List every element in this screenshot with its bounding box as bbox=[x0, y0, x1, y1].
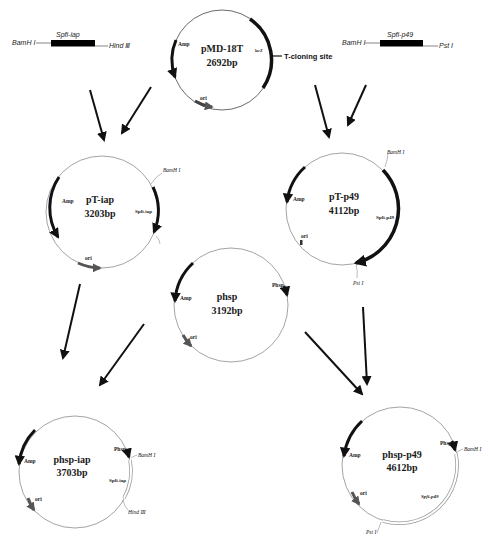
plasmid-pt-p49: BamH I Pst I Amp Spfi-p49 ori pT-p49 411… bbox=[286, 149, 405, 286]
arrow-pmd18t-to-ptiap bbox=[122, 87, 151, 133]
ori-arc bbox=[195, 101, 212, 107]
insert-gene-box bbox=[380, 40, 423, 47]
site-pointer bbox=[131, 455, 137, 458]
amp-label: Amp bbox=[62, 198, 74, 204]
plasmid-name: phsp-p49 bbox=[382, 449, 421, 460]
arrow-spfip49-to-ptp49 bbox=[348, 85, 366, 125]
ori-marker bbox=[300, 240, 303, 245]
plasmid-phsp: Amp Phsp ori phsp 3192bp bbox=[174, 248, 288, 362]
arrow-ptp49-to-phspp49 bbox=[363, 307, 367, 384]
amp-gene-arc bbox=[344, 421, 362, 456]
amp-label: Amp bbox=[349, 452, 361, 458]
arrow-phsp-to-phspiap bbox=[100, 324, 144, 385]
insert-label: Spfi-p49 bbox=[421, 494, 439, 499]
bamhi-site-label: BamH I bbox=[342, 39, 365, 46]
t-cloning-site-label: T-cloning site bbox=[284, 52, 332, 61]
site-pointer bbox=[356, 264, 357, 278]
plasmid-size: 3203bp bbox=[84, 208, 116, 219]
amp-label: Amp bbox=[293, 196, 305, 202]
plasmid-phsp-p49: BamH I Pst I Amp Phsp Spfi-p49 ori phsp-… bbox=[342, 407, 482, 535]
plasmid-size: 2692bp bbox=[206, 57, 238, 68]
arrow-pmd18t-to-ptp49 bbox=[315, 85, 329, 137]
insert-name-label: Spfi-p49 bbox=[387, 31, 413, 39]
bamhi-site-label: BamH I bbox=[387, 149, 405, 155]
bamhi-site-label: BamH I bbox=[464, 446, 482, 452]
psti-site-label: Pst I bbox=[365, 529, 377, 535]
promoter-label: Phsp bbox=[272, 282, 284, 288]
arrow-spfiiap-to-ptiap bbox=[90, 90, 104, 140]
insert-spfi-iap: BamH I Spfi-iap Hind Ⅲ bbox=[12, 31, 130, 49]
amp-label: Amp bbox=[178, 41, 190, 47]
plasmid-size: 3192bp bbox=[211, 305, 243, 316]
promoter-label: Phsp bbox=[114, 446, 126, 452]
plasmid-name: pT-p49 bbox=[329, 191, 359, 202]
hindiii-site-label: Hind Ⅲ bbox=[109, 42, 130, 49]
plasmid-name: phsp bbox=[217, 291, 238, 302]
ori-label: ori bbox=[35, 496, 42, 502]
psti-site-label: Pst I bbox=[352, 280, 364, 286]
ori-label: ori bbox=[200, 95, 207, 101]
plasmid-name: pT-iap bbox=[86, 194, 114, 205]
amp-label: Amp bbox=[24, 458, 36, 464]
insert-gene-arc bbox=[153, 187, 158, 232]
plasmid-phsp-iap: BamH I Hind Ⅲ Amp Phsp Spfi-iap ori phsp… bbox=[19, 416, 156, 528]
hindiii-site-label: Hind Ⅲ bbox=[127, 509, 146, 515]
plasmid-pt-iap: BamH I Amp Spfi-iap ori pT-iap 3203bp bbox=[46, 156, 181, 268]
lacz-label: lacZ bbox=[255, 48, 263, 53]
ori-label: ori bbox=[190, 334, 197, 340]
ori-label: ori bbox=[301, 233, 308, 239]
construction-diagram: Amp ori lacZ pMD-18T 2692bp T-cloning si… bbox=[0, 0, 492, 550]
plasmid-pmd18t: Amp ori lacZ pMD-18T 2692bp T-cloning si… bbox=[172, 10, 332, 110]
insert-label: Spfi-iap bbox=[109, 478, 126, 483]
ori-arc bbox=[78, 263, 100, 268]
promoter-label: Phsp bbox=[440, 440, 452, 446]
site-pointer bbox=[377, 522, 381, 533]
bamhi-site-label: BamH I bbox=[138, 452, 156, 458]
amp-gene-arc bbox=[50, 177, 59, 237]
amp-label: Amp bbox=[180, 295, 192, 301]
plasmid-size: 4612bp bbox=[386, 462, 418, 473]
plasmid-size: 4112bp bbox=[329, 205, 360, 216]
amp-gene-arc bbox=[172, 40, 176, 77]
bamhi-site-label: BamH I bbox=[12, 39, 35, 46]
ori-label: ori bbox=[85, 255, 92, 261]
insert-name-label: Spfi-iap bbox=[56, 31, 80, 39]
site-pointer bbox=[385, 153, 388, 167]
flow-arrows bbox=[63, 85, 367, 394]
bamhi-site-label: BamH I bbox=[163, 167, 181, 173]
site-pointer bbox=[151, 173, 162, 184]
promoter-arc bbox=[452, 441, 455, 450]
lacz-segment-arc bbox=[250, 19, 272, 88]
insert-label: Spfi-iap bbox=[135, 209, 152, 214]
site-pointer bbox=[156, 236, 160, 244]
insert-gene-box bbox=[51, 40, 95, 47]
promoter-arc bbox=[284, 286, 287, 295]
insert-label: Spfi-p49 bbox=[376, 215, 395, 220]
insert-spfi-p49: BamH I Spfi-p49 Pst I bbox=[342, 31, 453, 49]
plasmid-size: 3703bp bbox=[56, 467, 88, 478]
ori-label: ori bbox=[360, 490, 367, 496]
psti-site-label: Pst I bbox=[439, 42, 453, 49]
plasmid-name: phsp-iap bbox=[53, 454, 91, 465]
site-pointer bbox=[457, 449, 463, 452]
arrow-ptiap-to-phspiap bbox=[63, 284, 80, 358]
plasmid-name: pMD-18T bbox=[201, 43, 244, 54]
ori-arc bbox=[28, 498, 34, 510]
arrow-phsp-to-phspp49 bbox=[305, 332, 362, 394]
promoter-arc bbox=[126, 449, 129, 457]
